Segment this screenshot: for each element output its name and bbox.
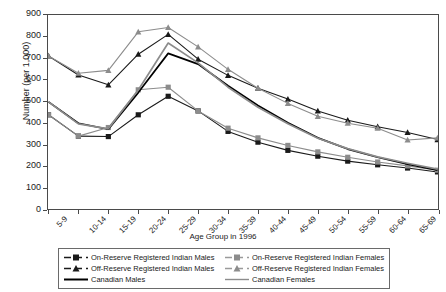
x-axis-title: Age Group in 1996 bbox=[0, 232, 446, 241]
x-tick-mark bbox=[348, 210, 349, 214]
data-point bbox=[225, 126, 230, 131]
data-point bbox=[255, 135, 260, 140]
data-point bbox=[375, 159, 380, 164]
x-tick-mark bbox=[228, 210, 229, 214]
data-point bbox=[166, 85, 171, 90]
data-point bbox=[135, 51, 141, 57]
legend-item-on-reserve-females[interactable]: On-Reserve Registered Indian Females bbox=[224, 252, 385, 263]
data-point bbox=[345, 155, 350, 160]
data-point bbox=[165, 24, 171, 30]
legend-label: On-Reserve Registered Indian Females bbox=[252, 254, 384, 262]
data-point bbox=[166, 94, 171, 99]
x-tick-mark bbox=[138, 210, 139, 214]
y-tick-label: 0 bbox=[11, 205, 41, 214]
data-point bbox=[285, 148, 290, 153]
x-tick-mark bbox=[168, 210, 169, 214]
legend-row: Off-Reserve Registered Indian Males Off-… bbox=[63, 263, 385, 274]
y-tick-label: 600 bbox=[11, 74, 41, 83]
data-point bbox=[285, 143, 290, 148]
y-tick-label: 400 bbox=[11, 118, 41, 127]
legend-row: On-Reserve Registered Indian Males On-Re… bbox=[63, 252, 385, 263]
x-tick-mark bbox=[78, 210, 79, 214]
legend-key-square-dark-icon bbox=[63, 252, 89, 263]
legend-row: Canadian Males Canadian Females bbox=[63, 274, 385, 285]
legend-label: On-Reserve Registered Indian Males bbox=[91, 254, 214, 262]
x-tick-label: 5-9 bbox=[55, 215, 69, 229]
legend-label: Off-Reserve Registered Indian Males bbox=[91, 265, 214, 273]
series-line bbox=[48, 43, 437, 169]
legend-label: Canadian Males bbox=[91, 276, 145, 284]
legend-item-on-reserve-males[interactable]: On-Reserve Registered Indian Males bbox=[63, 252, 224, 263]
y-tick-label: 500 bbox=[11, 96, 41, 105]
legend-key-square-grey-icon bbox=[224, 252, 250, 263]
y-tick-label: 100 bbox=[11, 183, 41, 192]
plot-area bbox=[47, 14, 439, 210]
x-tick-mark bbox=[198, 210, 199, 214]
series-3 bbox=[48, 24, 438, 142]
data-point bbox=[106, 134, 111, 139]
legend-item-off-reserve-females[interactable]: Off-Reserve Registered Indian Females bbox=[224, 263, 385, 274]
legend-key-line-grey-icon bbox=[224, 274, 250, 285]
series-5 bbox=[48, 43, 437, 169]
y-tick-label: 700 bbox=[11, 53, 41, 62]
data-point bbox=[48, 112, 51, 117]
x-tick-mark bbox=[318, 210, 319, 214]
data-point bbox=[165, 31, 171, 37]
x-tick-mark bbox=[258, 210, 259, 214]
data-point bbox=[76, 134, 81, 139]
data-point bbox=[225, 66, 231, 72]
data-point bbox=[255, 85, 261, 91]
plot-svg bbox=[48, 15, 438, 209]
legend-item-off-reserve-males[interactable]: Off-Reserve Registered Indian Males bbox=[63, 263, 224, 274]
data-point bbox=[48, 53, 52, 59]
y-tick-label: 900 bbox=[11, 9, 41, 18]
data-point bbox=[315, 113, 321, 119]
data-point bbox=[196, 108, 201, 113]
legend-label: Canadian Females bbox=[252, 276, 315, 284]
legend-item-canadian-males[interactable]: Canadian Males bbox=[63, 274, 224, 285]
legend-key-line-black-icon bbox=[63, 274, 89, 285]
y-tick-label: 800 bbox=[11, 31, 41, 40]
legend-label: Off-Reserve Registered Indian Females bbox=[252, 265, 384, 273]
data-point bbox=[136, 112, 141, 117]
series-line bbox=[48, 28, 437, 141]
x-tick-mark bbox=[439, 210, 440, 214]
x-tick-mark bbox=[48, 210, 49, 214]
x-tick-mark bbox=[108, 210, 109, 214]
legend-key-triangle-dark-icon bbox=[63, 263, 89, 274]
legend-key-triangle-grey-icon bbox=[224, 263, 250, 274]
data-point bbox=[195, 44, 201, 50]
y-tick-label: 300 bbox=[11, 140, 41, 149]
x-tick-mark bbox=[288, 210, 289, 214]
y-tick-mark bbox=[43, 210, 47, 211]
x-tick-mark bbox=[408, 210, 409, 214]
chart-figure: Number (per 1,000) 010020030040050060070… bbox=[0, 0, 446, 292]
y-tick-label: 200 bbox=[11, 161, 41, 170]
data-point bbox=[315, 149, 320, 154]
chart-legend: On-Reserve Registered Indian Males On-Re… bbox=[58, 248, 390, 289]
legend-item-canadian-females[interactable]: Canadian Females bbox=[224, 274, 385, 285]
data-point bbox=[225, 72, 231, 78]
x-tick-mark bbox=[378, 210, 379, 214]
